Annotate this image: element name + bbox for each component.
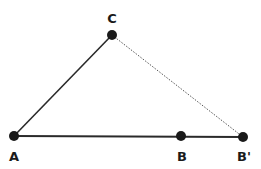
label-b-prime: B' bbox=[237, 149, 251, 164]
point-c bbox=[107, 30, 117, 40]
label-a: A bbox=[9, 149, 19, 164]
label-b: B bbox=[177, 149, 187, 164]
label-c: C bbox=[107, 11, 117, 26]
segment-c-b-prime-dotted bbox=[112, 35, 243, 137]
point-b-prime bbox=[238, 132, 248, 142]
triangle-diagram: A B B' C bbox=[0, 0, 261, 169]
point-b bbox=[176, 131, 186, 141]
segment-a-c bbox=[14, 35, 112, 136]
segment-a-b-prime bbox=[14, 136, 243, 137]
point-a bbox=[9, 131, 19, 141]
